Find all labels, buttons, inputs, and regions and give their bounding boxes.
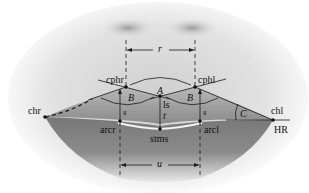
label-chr: chr	[28, 106, 41, 116]
label-u: u	[157, 159, 162, 169]
label-cphl: cphl	[198, 75, 215, 85]
nostril-left	[166, 18, 218, 38]
lip-diagram: r cphr cphl A B B ls t s s C chr chl HR …	[0, 0, 309, 193]
label-angle-b-left: B	[187, 93, 193, 103]
label-ls: ls	[163, 100, 170, 110]
point-arcr	[118, 119, 122, 123]
point-chl	[271, 118, 275, 122]
label-arcl: arcl	[204, 125, 219, 135]
label-angle-b-right: B	[128, 93, 134, 103]
point-chr	[43, 115, 47, 119]
nostril-right	[102, 18, 154, 38]
label-arcr: arcr	[100, 125, 116, 135]
label-stms: stms	[150, 134, 168, 144]
label-cphr: cphr	[106, 75, 124, 85]
point-arcl	[198, 119, 202, 123]
label-r: r	[158, 44, 162, 54]
point-cphl	[193, 85, 197, 89]
label-angle-a: A	[157, 86, 163, 96]
diagram-graphics	[0, 0, 309, 193]
point-stms	[158, 127, 162, 131]
label-s-left: s	[203, 108, 207, 117]
label-angle-c: C	[240, 109, 247, 119]
point-cphr	[124, 85, 128, 89]
label-t: t	[163, 111, 166, 121]
label-s-right: s	[123, 108, 127, 117]
label-chl: chl	[271, 106, 283, 116]
label-hr: HR	[274, 125, 288, 135]
